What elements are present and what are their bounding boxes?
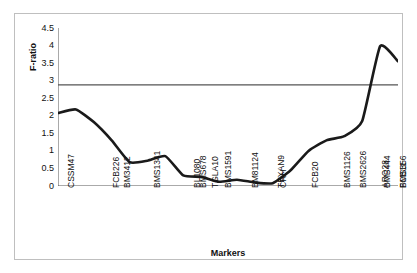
x-tick-label: FCB20 — [311, 162, 320, 188]
y-tick-label: 0 — [30, 182, 54, 191]
y-axis-tick-labels: 4.543.532.521.510.50 — [28, 28, 54, 186]
x-tick-label: BMS444 — [383, 155, 392, 188]
x-tick-label: BMS1591 — [224, 151, 233, 188]
x-tick-label: BMS678 — [199, 155, 208, 188]
y-tick-label: 2.5 — [30, 94, 54, 103]
y-tick-label: 4.5 — [30, 24, 54, 33]
y-tick-label: 2 — [30, 111, 54, 120]
x-tick-label: BMS1341 — [153, 151, 162, 188]
x-tick-label: CSSM47 — [67, 154, 76, 188]
x-axis-title: Markers — [58, 248, 398, 258]
y-tick-label: 3 — [30, 76, 54, 85]
y-tick-label: 0.5 — [30, 164, 54, 173]
x-tick-label: BM81124 — [251, 152, 260, 188]
y-tick-label: 1.5 — [30, 129, 54, 138]
chart-figure: F-ratio 4.543.532.521.510.50 CSSM47FCB22… — [0, 0, 417, 273]
y-tick-label: 1 — [30, 146, 54, 155]
x-tick-label: BMS1126 — [343, 151, 352, 188]
x-tick-label: FCB226 — [112, 157, 121, 188]
y-tick-label: 4 — [30, 41, 54, 50]
x-tick-label: BM3412 — [123, 156, 132, 188]
x-tick-label: TGLA10 — [211, 156, 220, 188]
x-axis-tick-labels: CSSM47FCB226BM3412BMS1341BL1080BMS678TGL… — [58, 188, 398, 250]
x-tick-label: CRH — [279, 170, 288, 188]
x-tick-label: FCB11 — [399, 162, 408, 188]
y-tick-label: 3.5 — [30, 59, 54, 68]
x-tick-label: BMS2626 — [359, 151, 368, 188]
